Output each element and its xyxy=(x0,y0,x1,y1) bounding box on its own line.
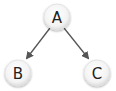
node-b: B xyxy=(5,60,31,86)
node-a: A xyxy=(44,4,70,30)
node-c-label: C xyxy=(92,65,102,83)
node-c: C xyxy=(84,60,110,86)
node-b-label: B xyxy=(13,65,23,83)
edge-a-to-c xyxy=(64,28,88,58)
edge-a-to-b xyxy=(27,28,50,58)
node-a-label: A xyxy=(52,9,63,27)
tree-diagram: A B C xyxy=(0,0,116,91)
